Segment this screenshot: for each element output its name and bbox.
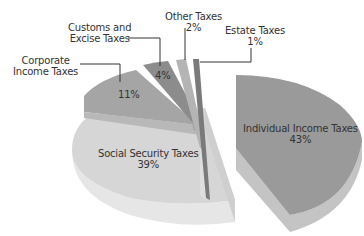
value-corporate-income-taxes: 11% (118, 89, 140, 100)
label-individual-income-taxes: Individual Income Taxes 43% (243, 123, 358, 145)
label-social-security-taxes: Social Security Taxes 39% (98, 148, 198, 170)
label-corporate-income-taxes: Corporate Income Taxes (13, 55, 78, 77)
label-customs-excise-taxes: Customs and Excise Taxes (68, 22, 131, 44)
pie-chart (0, 0, 364, 236)
label-other-taxes: Other Taxes 2% (165, 11, 222, 33)
slice-individual-income-taxes (236, 75, 362, 232)
label-estate-taxes: Estate Taxes 1% (225, 25, 285, 47)
value-customs-excise-taxes: 4% (155, 70, 170, 81)
